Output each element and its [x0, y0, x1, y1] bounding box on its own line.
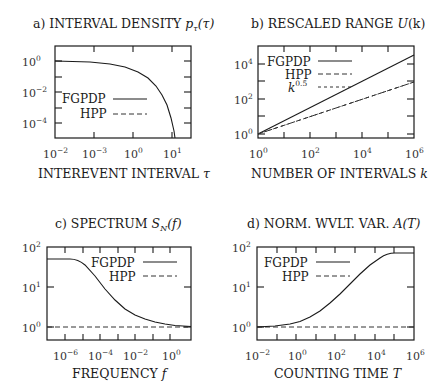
panel-a-ytick-1: 10−2	[22, 85, 47, 100]
panel-b-legend-fgpdp: FGPDP	[267, 55, 311, 69]
panel-a-xlabel: INTEREVENT INTERVAL τ	[38, 166, 211, 181]
panel-d: d) NORM. WVLT. VAR. A(T) 102 101 100 10−…	[232, 216, 425, 381]
panel-b-ytick-0: 104	[234, 57, 253, 72]
panel-c-legend-hpp: HPP	[109, 270, 136, 284]
panel-d-title: d) NORM. WVLT. VAR. A(T)	[247, 216, 421, 231]
panel-c-xtick-3: 100	[162, 348, 181, 363]
panel-d-xtick-4: 106	[406, 348, 425, 363]
panel-c: c) SPECTRUM SN(f) 102 101 100 10−6 10−4 …	[22, 216, 191, 381]
panel-d-y-ticks	[257, 287, 414, 327]
panel-d-xtick-1: 100	[288, 348, 307, 363]
panel-b-title: b) RESCALED RANGE U(k)	[251, 16, 425, 31]
panel-d-legend-fgpdp: FGPDP	[264, 256, 308, 270]
panel-d-xtick-0: 10−2	[245, 348, 270, 363]
panel-a-xtick-1: 10−3	[82, 146, 107, 161]
panel-d-xtick-2: 102	[327, 348, 346, 363]
panel-c-ytick-0: 102	[22, 240, 41, 255]
panel-a-title: a) INTERVAL DENSITY pτ(τ)	[33, 16, 214, 33]
panel-d-legend-hpp: HPP	[282, 270, 309, 284]
panel-c-xtick-1: 10−4	[88, 348, 113, 363]
panel-d-xtick-3: 104	[367, 348, 386, 363]
panel-c-xtick-0: 10−6	[53, 348, 78, 363]
panel-d-ytick-0: 102	[232, 240, 251, 255]
panel-d-ytick-1: 101	[232, 280, 251, 295]
panel-c-xtick-2: 10−2	[123, 348, 148, 363]
panel-a-xtick-2: 100	[124, 146, 143, 161]
panel-a-ytick-2: 10−4	[22, 116, 47, 131]
panel-b: b) RESCALED RANGE U(k) 104 102 100 100 1…	[234, 16, 428, 181]
panel-b-xlabel: NUMBER OF INTERVALS k	[251, 166, 428, 181]
panel-b-xtick-2: 104	[353, 146, 372, 161]
panel-a-xtick-3: 101	[163, 146, 182, 161]
panel-b-xtick-0: 100	[249, 146, 268, 161]
panel-a-ytick-0: 100	[22, 54, 41, 69]
panel-b-xtick-3: 106	[405, 146, 424, 161]
panel-a-xtick-0: 10−2	[43, 146, 68, 161]
panel-b-legend-k05: k0.5	[288, 79, 307, 95]
panel-a: a) INTERVAL DENSITY pτ(τ) 100 10−2 10−4 …	[22, 16, 214, 181]
panel-d-xlabel: COUNTING TIME T	[274, 366, 403, 381]
panel-d-ytick-2: 100	[232, 320, 251, 335]
panel-a-legend-hpp: HPP	[80, 107, 107, 121]
panel-a-legend-fgpdp: FGPDP	[62, 92, 106, 106]
panel-b-ytick-2: 100	[234, 127, 253, 142]
panel-c-xlabel: FREQUENCY f	[72, 366, 169, 381]
panel-b-ytick-1: 102	[234, 92, 253, 107]
panel-c-ytick-1: 101	[22, 280, 41, 295]
panel-c-y-ticks	[47, 287, 191, 327]
panel-c-ytick-2: 100	[22, 320, 41, 335]
panel-b-xtick-1: 102	[301, 146, 320, 161]
panel-c-title: c) SPECTRUM SN(f)	[55, 216, 182, 233]
panel-c-legend-fgpdp: FGPDP	[91, 256, 135, 270]
figure: a) INTERVAL DENSITY pτ(τ) 100 10−2 10−4 …	[0, 0, 439, 389]
